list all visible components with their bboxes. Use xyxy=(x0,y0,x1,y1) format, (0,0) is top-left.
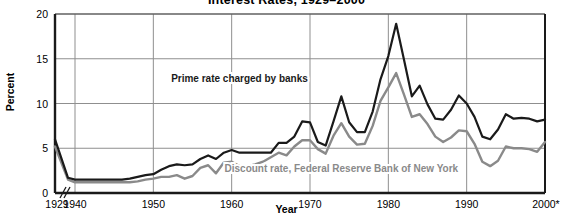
x-tick-label: 1950 xyxy=(142,198,166,210)
series-label: Discount rate, Federal Reserve Bank of N… xyxy=(225,163,459,174)
y-tick-label: 15 xyxy=(36,53,48,65)
x-tick-label: 1960 xyxy=(220,198,244,210)
x-tick-label: 1990 xyxy=(455,198,479,210)
x-tick-label: 2000* xyxy=(532,198,559,210)
x-tick-label: 1980 xyxy=(377,198,401,210)
series-label: Prime rate charged by banks xyxy=(171,73,308,84)
y-tick-label: 5 xyxy=(42,142,48,154)
x-tick-label: 1970 xyxy=(298,198,322,210)
interest-rates-chart: Interest Rates, 1929–2000 Percent Year 0… xyxy=(0,0,573,220)
y-tick-label: 20 xyxy=(36,8,48,20)
plot-canvas: 0510152019291940195019601970198019902000… xyxy=(0,0,573,220)
x-tick-label: 1940 xyxy=(63,198,87,210)
y-tick-label: 10 xyxy=(36,98,48,110)
series-line xyxy=(55,24,545,180)
